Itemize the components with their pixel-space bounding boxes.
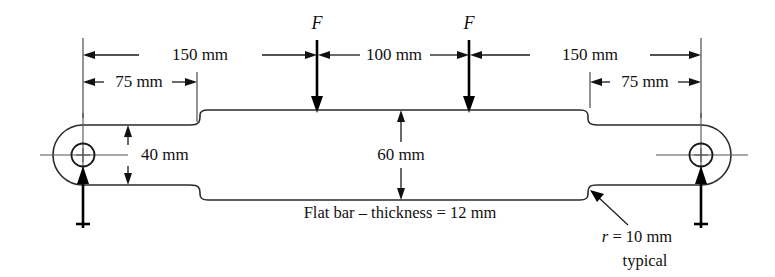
dimension-75mm-left: 75 mm bbox=[83, 72, 197, 91]
radius-value: = 10 mm bbox=[612, 227, 672, 246]
reaction-force-right bbox=[694, 166, 708, 228]
dimension-row-primary: 150 mm 100 mm 150 mm bbox=[83, 45, 701, 64]
dimension-label-40-height: 40 mm bbox=[141, 145, 189, 164]
radius-note-line1: r = 10 mm bbox=[602, 227, 672, 246]
dim-arrow-40-top bbox=[124, 125, 132, 137]
applied-force-left: F bbox=[311, 13, 324, 113]
dimension-100mm-center: 100 mm bbox=[318, 45, 469, 64]
dim-arrow-75-right-start bbox=[590, 78, 602, 86]
applied-force-right: F bbox=[463, 13, 476, 113]
dimension-label-75-right: 75 mm bbox=[621, 72, 669, 91]
reaction-right-arrowhead-icon bbox=[695, 166, 707, 184]
dim-arrow-100-start bbox=[318, 51, 330, 59]
dimension-label-75-left: 75 mm bbox=[115, 72, 163, 91]
radius-note-line2: typical bbox=[623, 251, 668, 270]
dim-arrow-150-left-end bbox=[305, 51, 317, 59]
dim-arrow-150-left-start bbox=[83, 51, 95, 59]
dim-arrow-75-left-end bbox=[185, 78, 197, 86]
dim-arrow-75-left-start bbox=[83, 78, 95, 86]
dimension-label-150-right: 150 mm bbox=[562, 45, 618, 64]
dimension-150mm-left: 150 mm bbox=[83, 45, 317, 64]
dimension-label-100-center: 100 mm bbox=[366, 45, 422, 64]
radius-leader-line bbox=[597, 196, 628, 225]
dim-arrow-75-right-end bbox=[689, 78, 701, 86]
dim-arrow-150-right-end bbox=[689, 51, 701, 59]
reaction-left-arrowhead-icon bbox=[77, 166, 89, 184]
reaction-force-left bbox=[76, 166, 90, 228]
dimension-label-60-height: 60 mm bbox=[377, 145, 425, 164]
dim-arrow-40-bottom bbox=[124, 173, 132, 185]
dim-arrow-150-right-start bbox=[470, 51, 482, 59]
dimension-60mm-height: 60 mm bbox=[377, 110, 425, 200]
engineering-drawing-canvas: 150 mm 100 mm 150 mm bbox=[0, 0, 775, 277]
dimension-150mm-right: 150 mm bbox=[470, 45, 701, 64]
force-left-label: F bbox=[311, 13, 324, 33]
radius-callout: r = 10 mm typical bbox=[590, 190, 672, 270]
dim-arrow-100-end bbox=[457, 51, 469, 59]
dimension-label-150-left: 150 mm bbox=[172, 45, 228, 64]
dimension-row-secondary: 75 mm 75 mm bbox=[83, 72, 701, 91]
dim-arrow-60-top bbox=[397, 110, 405, 122]
dimension-40mm-height: 40 mm bbox=[124, 125, 189, 185]
flat-bar-drawing: 150 mm 100 mm 150 mm bbox=[0, 0, 775, 277]
dim-arrow-60-bottom bbox=[397, 188, 405, 200]
force-right-label: F bbox=[463, 13, 476, 33]
dimension-75mm-right: 75 mm bbox=[590, 72, 701, 91]
thickness-note-label: Flat bar – thickness = 12 mm bbox=[304, 203, 497, 222]
